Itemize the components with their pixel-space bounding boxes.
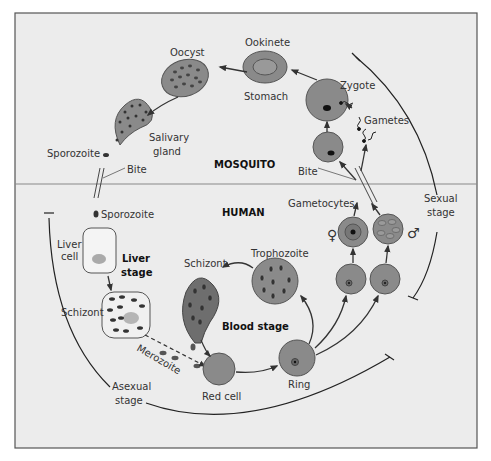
label-sporozoite-human: Sporozoite (101, 209, 154, 220)
mature-gametocyte-female (338, 217, 368, 247)
label-gametocytes: Gametocytes (288, 198, 355, 209)
label-schizont-blood: Schizont (184, 258, 227, 269)
label-gametes: Gametes (364, 115, 409, 126)
female-symbol: ♀ (327, 227, 337, 243)
label-salivary-gland-2: gland (153, 146, 181, 157)
label-oocyst: Oocyst (170, 47, 205, 58)
label-salivary-gland-1: Salivary (149, 132, 189, 143)
label-trophozoite: Trophozoite (250, 248, 309, 259)
label-schizont-liver: Schizont (61, 307, 104, 318)
liver-schizont (102, 292, 150, 338)
label-mosquito: MOSQUITO (214, 159, 275, 170)
label-red-cell: Red cell (202, 391, 241, 402)
label-bite-right: Bite (298, 166, 318, 177)
label-liver-cell-2: cell (61, 251, 78, 262)
red-cell (203, 353, 235, 385)
label-sexual-stage-1: Sexual (424, 193, 458, 204)
label-blood-stage: Blood stage (222, 321, 289, 332)
male-symbol: ♂ (407, 225, 420, 241)
malaria-life-cycle-diagram: Oocyst Ookinete Stomach Zygote Gametes S… (0, 0, 491, 461)
label-bite-left: Bite (127, 164, 147, 175)
label-stomach: Stomach (244, 91, 288, 102)
sporozoite-mosquito (103, 153, 109, 157)
label-sporozoite-mosquito: Sporozoite (47, 148, 100, 159)
label-human: HUMAN (222, 207, 265, 218)
label-asexual-stage-1: Asexual (112, 381, 151, 392)
immature-gametocyte-male (370, 264, 400, 294)
sporozoite-human (94, 211, 99, 218)
ookinete-cell (243, 51, 287, 83)
label-sexual-stage-2: stage (427, 207, 455, 218)
label-liver-stage-2: stage (121, 267, 153, 278)
liver-cell (83, 228, 116, 273)
mature-gametocyte-male (373, 214, 403, 244)
label-ookinete: Ookinete (245, 37, 290, 48)
label-liver-stage-1: Liver (122, 253, 150, 264)
mosquito-gametocyte-cell (313, 132, 343, 162)
ring-cell (279, 340, 315, 376)
label-zygote: Zygote (340, 80, 375, 91)
label-asexual-stage-2: stage (115, 395, 143, 406)
label-liver-cell-1: Liver (57, 239, 82, 250)
immature-gametocyte-female (336, 264, 366, 294)
trophozoite-cell (252, 258, 298, 304)
label-ring: Ring (288, 379, 310, 390)
